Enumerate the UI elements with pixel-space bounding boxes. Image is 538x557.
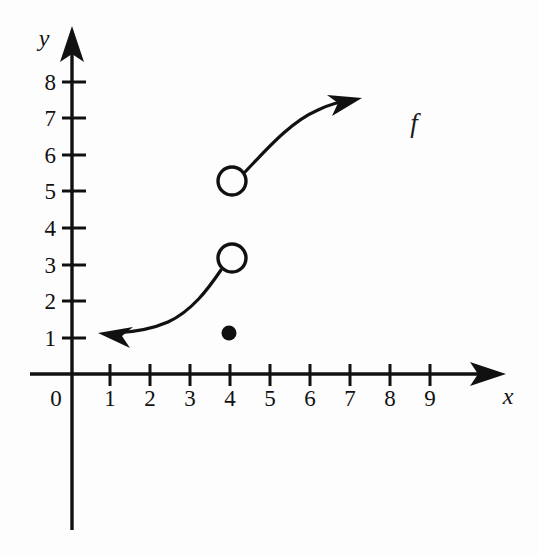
y-tick-label-5: 5: [45, 179, 57, 204]
y-tick-label-4: 4: [45, 216, 57, 241]
x-tick-label-4: 4: [224, 386, 236, 411]
x-tick-labels-group: 0 1 2 3 4 5 6 7 8 9: [50, 386, 436, 411]
y-tick-labels-group: 8 7 6 5 4 3 2 1: [45, 70, 57, 351]
x-tick-label-9: 9: [424, 386, 436, 411]
x-tick-label-1: 1: [104, 386, 116, 411]
y-tick-label-3: 3: [45, 253, 57, 278]
x-tick-label-5: 5: [264, 386, 276, 411]
y-tick-label-8: 8: [45, 70, 57, 95]
y-tick-label-7: 7: [45, 106, 57, 131]
axes-group: [30, 26, 506, 530]
open-endpoint-upper-marker: [218, 167, 246, 195]
graph-figure: 8 7 6 5 4 3 2 1 0 1 2 3 4 5: [0, 0, 538, 557]
function-label: f: [410, 108, 421, 138]
y-tick-label-2: 2: [45, 289, 57, 314]
y-axis-label: y: [37, 25, 50, 51]
y-tick-label-6: 6: [45, 143, 57, 168]
x-tick-label-8: 8: [384, 386, 396, 411]
closed-point-marker: [222, 326, 237, 341]
y-tick-label-1: 1: [45, 326, 57, 351]
coordinate-plane: 8 7 6 5 4 3 2 1 0 1 2 3 4 5: [0, 0, 538, 557]
y-ticks-group: [62, 82, 86, 338]
open-endpoint-lower-marker: [218, 244, 246, 272]
left-branch-arrow-icon: [98, 327, 133, 348]
x-tick-label-7: 7: [344, 386, 356, 411]
series-right-branch: [245, 95, 362, 172]
series-left-branch: [98, 270, 221, 348]
left-branch-curve: [116, 270, 221, 333]
markers-group: [218, 167, 246, 341]
x-tick-label-6: 6: [304, 386, 316, 411]
x-tick-label-0: 0: [50, 386, 62, 411]
x-axis-label: x: [502, 383, 514, 409]
x-tick-label-2: 2: [144, 386, 156, 411]
x-tick-label-3: 3: [184, 386, 196, 411]
